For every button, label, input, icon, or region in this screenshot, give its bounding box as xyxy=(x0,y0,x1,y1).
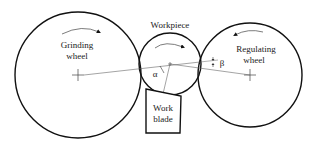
grinding-wheel: Grinding wheel xyxy=(15,12,141,138)
workpiece-label: Workpiece xyxy=(151,20,190,30)
grinding-wheel-rotation-arrow-icon xyxy=(62,28,99,34)
workpiece: Workpiece xyxy=(139,20,201,95)
grinding-wheel-center-mark-icon xyxy=(72,69,84,81)
workpiece-to-blade-line xyxy=(163,64,170,94)
regulating-wheel-rotation-arrow-icon xyxy=(235,31,263,35)
workpiece-to-regulating-center-line xyxy=(170,64,250,75)
beta-angle-arrows-icon xyxy=(212,57,215,67)
centerless-grinding-diagram: Grinding wheel Workpiece Regulating whee… xyxy=(0,0,314,146)
grinding-to-workpiece-center-line xyxy=(84,62,200,75)
alpha-angle-arc-icon xyxy=(160,66,164,73)
alpha-label: α xyxy=(153,69,158,79)
grinding-wheel-label-line1: Grinding xyxy=(61,40,94,50)
regulating-wheel-label-line2: wheel xyxy=(243,55,265,65)
regulating-wheel-label-line1: Regulating xyxy=(236,44,276,54)
work-blade: Work blade xyxy=(146,89,181,133)
grinding-wheel-label-line2: wheel xyxy=(66,51,88,61)
work-blade-label-line2: blade xyxy=(153,114,173,124)
work-blade-label-line1: Work xyxy=(153,103,173,113)
reference-line-extension xyxy=(200,60,218,62)
beta-label: β xyxy=(220,58,225,68)
workpiece-rotation-arrow-icon xyxy=(155,44,183,48)
